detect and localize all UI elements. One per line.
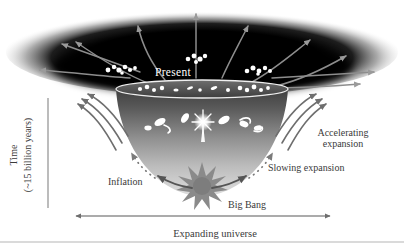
diagram-canvas bbox=[0, 0, 404, 249]
time-axis-label-line1: Time bbox=[9, 145, 20, 166]
present-label: Present bbox=[155, 66, 191, 78]
slowing-expansion-label: Slowing expansion bbox=[268, 163, 344, 174]
accelerating-expansion-label: Accelerating expansion bbox=[317, 128, 368, 150]
accelerating-expansion-line2: expansion bbox=[317, 139, 368, 150]
expanding-universe-label: Expanding universe bbox=[173, 228, 257, 239]
inflation-label: Inflation bbox=[108, 177, 142, 188]
present-rim-ellipse bbox=[116, 80, 288, 98]
curved-arrow bbox=[282, 99, 322, 143]
curved-arrow bbox=[82, 99, 122, 143]
cosmology-diagram: Present Accelerating expansion Slowing e… bbox=[0, 0, 404, 249]
time-axis-label-line2: (~15 billion years) bbox=[23, 118, 34, 192]
galaxy-shape bbox=[144, 126, 151, 131]
big-bang-label: Big Bang bbox=[228, 200, 266, 211]
